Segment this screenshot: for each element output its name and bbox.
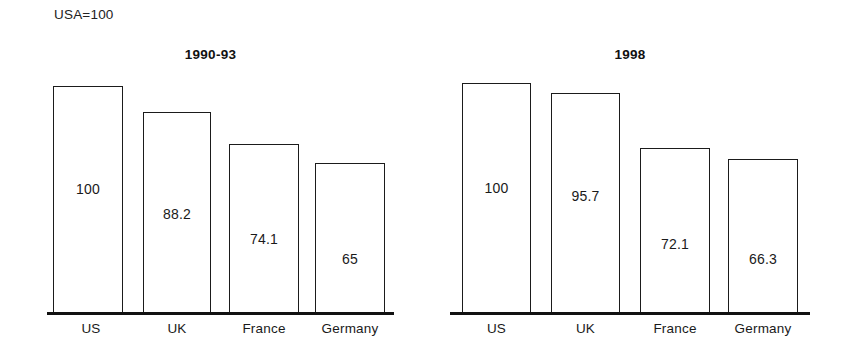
category-label-germany-1990-93: Germany: [315, 321, 385, 336]
chart-panel-1998: 1998 100 95.7 72.1 66.3: [423, 0, 845, 360]
bar-germany-1990-93[interactable]: 65: [315, 163, 385, 313]
bar-france-1998[interactable]: 72.1: [640, 148, 710, 313]
x-axis-left: [47, 312, 394, 315]
bar-value-us-1998: 100: [463, 180, 530, 196]
plot-area-right: 100 95.7 72.1 66.3: [450, 60, 810, 313]
x-axis-right: [450, 312, 810, 315]
bar-us-1998[interactable]: 100: [462, 83, 531, 313]
category-label-france-1998: France: [640, 321, 710, 336]
bar-value-germany-1998: 66.3: [729, 251, 797, 267]
category-label-us-1998: US: [462, 321, 531, 336]
bar-group-right: 100 95.7 72.1 66.3: [450, 60, 810, 313]
bar-value-uk-1990-93: 88.2: [144, 206, 210, 222]
bar-us-1990-93[interactable]: 100: [53, 86, 123, 313]
bar-group-left: 100 88.2 74.1 65: [47, 60, 394, 313]
category-label-us-1990-93: US: [54, 321, 128, 336]
bar-value-france-1998: 72.1: [641, 236, 709, 252]
category-label-uk-1990-93: UK: [143, 321, 211, 336]
category-label-germany-1998: Germany: [728, 321, 798, 336]
bar-uk-1990-93[interactable]: 88.2: [143, 112, 211, 313]
bar-germany-1998[interactable]: 66.3: [728, 159, 798, 313]
category-label-uk-1998: UK: [551, 321, 620, 336]
category-label-france-1990-93: France: [229, 321, 299, 336]
bar-france-1990-93[interactable]: 74.1: [229, 144, 299, 313]
bar-value-germany-1990-93: 65: [316, 251, 384, 267]
bar-value-us-1990-93: 100: [54, 181, 122, 197]
plot-area-left: 100 88.2 74.1 65: [47, 60, 394, 313]
bar-uk-1998[interactable]: 95.7: [551, 93, 620, 313]
bar-value-france-1990-93: 74.1: [230, 231, 298, 247]
chart-panel-1990-93: 1990-93 100 88.2 74.1 65 US UK France Ge…: [0, 0, 423, 360]
bar-value-uk-1998: 95.7: [552, 188, 619, 204]
